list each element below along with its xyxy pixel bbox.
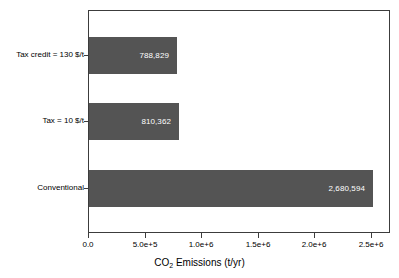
x-axis-tick-mark — [258, 233, 259, 238]
x-axis-tick-mark — [145, 233, 146, 238]
y-axis-category-label: Tax credit = 130 $/t — [16, 51, 84, 59]
x-axis-tick-label: 1.0e+6 — [189, 241, 214, 249]
x-axis-tick-mark — [371, 233, 372, 238]
bar-chart: 788,829 810,362 2,680,594 Tax credit = 1… — [0, 0, 399, 278]
x-axis-tick-label: 2.0e+6 — [302, 241, 327, 249]
x-axis-tick-mark — [314, 233, 315, 238]
x-axis-tick-label: 0.0 — [82, 241, 93, 249]
y-axis-tick-mark — [84, 55, 89, 56]
bar-value-label: 788,829 — [139, 52, 169, 60]
y-axis-category-label: Conventional — [37, 184, 84, 192]
x-axis-tick-label: 5.0e+5 — [133, 241, 158, 249]
bars-layer: 788,829 810,362 2,680,594 — [89, 11, 389, 232]
y-axis-tick-mark — [84, 188, 89, 189]
bar-row: 810,362 — [89, 103, 179, 140]
bar-value-label: 2,680,594 — [329, 185, 366, 193]
x-axis-title: CO2 Emissions (t/yr) — [0, 258, 399, 269]
y-axis-tick-mark — [84, 121, 89, 122]
bar-value-label: 810,362 — [141, 118, 171, 126]
x-axis-tick-mark — [201, 233, 202, 238]
x-axis-title-suffix: Emissions (t/yr) — [173, 257, 245, 268]
bar-row: 788,829 — [89, 37, 177, 74]
y-axis-category-label: Tax = 10 $/t — [42, 117, 84, 125]
x-axis-title-prefix: CO — [154, 257, 169, 268]
x-axis-tick-mark — [88, 233, 89, 238]
x-axis-tick-label: 2.5e+6 — [359, 241, 384, 249]
x-axis-tick-label: 1.5e+6 — [246, 241, 271, 249]
bar-row: 2,680,594 — [89, 170, 373, 207]
